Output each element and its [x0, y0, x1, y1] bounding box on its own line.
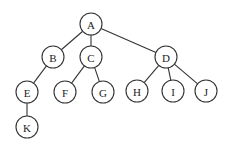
edge-c-g [95, 67, 100, 81]
node-label: G [99, 87, 107, 99]
nodes-layer: ABCDEFGHIJK [16, 13, 217, 138]
node-label: H [133, 86, 141, 98]
node-d: D [155, 46, 177, 68]
node-c: C [80, 46, 102, 68]
edge-a-b [61, 31, 82, 50]
edges-layer [27, 28, 198, 116]
node-f: F [54, 81, 76, 103]
node-k: K [16, 116, 38, 138]
node-label: F [62, 87, 68, 99]
node-e: E [16, 81, 38, 103]
node-a: A [80, 13, 102, 35]
node-label: D [162, 52, 170, 64]
node-g: G [92, 81, 114, 103]
node-label: I [171, 86, 175, 98]
node-label: K [23, 122, 31, 134]
node-label: J [204, 86, 209, 98]
node-j: J [195, 80, 217, 102]
node-b: B [42, 46, 64, 68]
node-label: E [24, 87, 31, 99]
node-h: H [126, 80, 148, 102]
tree-diagram: ABCDEFGHIJK [0, 0, 231, 147]
node-label: C [87, 52, 94, 64]
node-i: I [162, 80, 184, 102]
edge-d-h [144, 65, 159, 82]
node-label: A [87, 19, 95, 31]
edge-d-i [168, 68, 171, 80]
edge-c-f [72, 66, 85, 83]
edge-a-d [101, 28, 156, 52]
node-label: B [49, 52, 56, 64]
edge-b-e [34, 66, 47, 83]
